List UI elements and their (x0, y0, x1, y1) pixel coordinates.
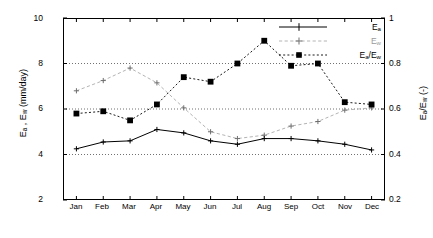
y-tick-left-10: 10 (21, 14, 43, 23)
y-axis-title-right-sub-a: a (421, 111, 428, 115)
y-axis-title-left-mid: , E (18, 114, 28, 128)
y-axis-title-right-slash: /E (418, 102, 428, 111)
legend-label-ratio-slash: /E (369, 50, 377, 60)
y-axis-title-right: Ea/Ew (-) (418, 28, 428, 178)
y-tick-right-0.4: 0.4 (389, 150, 415, 159)
legend-label-ratio-sub2: w (377, 53, 381, 60)
figure-canvas: 10 8 6 4 2 1 0.8 0.6 0.4 0.2 Jan Feb Mar… (0, 0, 433, 238)
y-tick-right-0.8: 0.8 (389, 59, 415, 68)
legend-item-ratio: Ea/Ew (277, 48, 381, 62)
legend-label-ratio: Ea/Ew (331, 49, 381, 63)
legend-key-ratio-icon (277, 48, 329, 62)
y-axis-title-left-ea: E (18, 131, 28, 137)
legend-label-ea-sub: a (378, 25, 381, 32)
y-tick-left-2: 2 (21, 195, 43, 204)
legend-label-ew-sub: w (377, 39, 381, 46)
legend-item-ew: Ew (277, 34, 381, 48)
chart-legend: Ea Ew Ea/Ew (277, 20, 381, 62)
y-tick-right-1: 1 (389, 14, 415, 23)
y-axis-title-left-units: (mm/day) (18, 69, 28, 110)
y-axis-title-left: Ea , Ew (mm/day) (18, 28, 28, 178)
y-axis-title-right-units: (-) (418, 86, 428, 98)
legend-item-ea: Ea (277, 20, 381, 34)
y-axis-title-left-sub-a: a (21, 128, 28, 132)
y-tick-right-0.2: 0.2 (389, 195, 415, 204)
y-axis-title-right-e: E (418, 114, 428, 120)
x-tick-dec: Dec (352, 203, 392, 211)
legend-key-ea-icon (277, 20, 329, 34)
y-axis-title-left-sub-w: w (21, 110, 28, 115)
legend-key-ew-icon (277, 34, 329, 48)
y-axis-title-right-sub-w: w (421, 98, 428, 103)
y-tick-right-0.6: 0.6 (389, 104, 415, 113)
